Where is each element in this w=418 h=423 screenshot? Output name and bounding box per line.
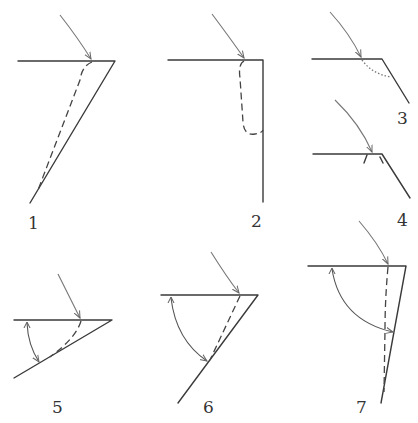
deformation-profile	[210, 296, 240, 360]
flow-arrow-icon	[359, 221, 388, 264]
panel-2: 2	[168, 14, 263, 231]
tool-edge	[313, 154, 410, 198]
panel-label: 3	[397, 108, 408, 128]
panel-label: 6	[203, 397, 214, 417]
deformation-profile	[50, 321, 81, 357]
tool-edge	[161, 295, 258, 403]
panel-6: 6	[161, 252, 258, 417]
flow-arrow-icon	[60, 15, 91, 59]
angle-arc-icon	[27, 323, 39, 362]
tick-mark	[380, 157, 383, 163]
panel-4: 4	[313, 100, 410, 230]
panel-1: 1	[18, 15, 115, 233]
tool-edge	[312, 59, 409, 103]
wear-profile	[362, 60, 391, 77]
panel-label: 4	[397, 210, 408, 230]
tool-edge	[168, 60, 263, 202]
panel-label: 5	[52, 397, 63, 417]
flow-arrow-icon	[212, 14, 244, 58]
diagram-canvas: 1 2 3 4 5 6	[0, 0, 418, 423]
tick-mark	[364, 155, 367, 163]
angle-arc-icon	[171, 298, 207, 361]
flow-arrow-icon	[335, 100, 372, 152]
tool-edge	[308, 266, 406, 403]
panel-3: 3	[312, 12, 409, 128]
tool-edge	[18, 61, 115, 203]
panel-7: 7	[308, 221, 406, 417]
panel-label: 2	[251, 211, 262, 231]
deformation-profile	[240, 61, 264, 134]
flow-arrow-icon	[58, 274, 80, 318]
panel-label: 7	[356, 397, 367, 417]
panel-label: 1	[28, 213, 39, 233]
flow-arrow-icon	[211, 252, 239, 293]
tool-edge	[14, 320, 112, 378]
deformation-profile	[38, 62, 92, 190]
angle-arc-icon	[332, 269, 393, 332]
panel-5: 5	[14, 274, 112, 417]
flow-arrow-icon	[330, 12, 361, 57]
